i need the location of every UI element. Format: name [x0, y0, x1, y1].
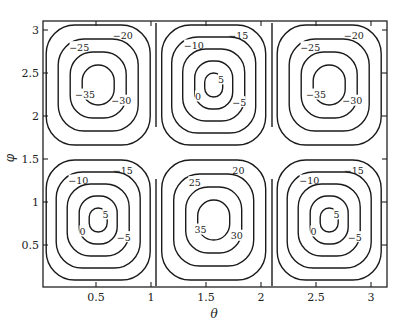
y-tick-label: 2: [32, 110, 39, 123]
contour-line: [162, 160, 266, 280]
contour-label: 35: [194, 224, 206, 235]
contour-line: [186, 187, 242, 253]
contour-line: [56, 172, 140, 268]
contour-line: [172, 37, 256, 133]
contour-line: [162, 25, 266, 145]
x-tick-label: 3: [368, 291, 375, 304]
contour-line: [287, 172, 371, 268]
contours: −20−25−30−35−15−10−505−20−25−30−35−15−10…: [46, 25, 381, 280]
contour-line: [277, 25, 381, 145]
x-tick-label: 2.5: [307, 291, 325, 304]
contour-line: [298, 184, 360, 256]
contour-line: [301, 52, 357, 118]
contour-label: −30: [111, 95, 131, 106]
contour-label: −15: [344, 165, 364, 176]
contour-label: −35: [75, 89, 95, 100]
contour-label: −35: [306, 89, 326, 100]
y-tick-label: 0.5: [22, 239, 40, 252]
contour-line: [70, 52, 126, 118]
y-tick-label: 1.5: [22, 153, 40, 166]
separatrices: [156, 23, 272, 286]
contour-label: 5: [334, 209, 340, 220]
contour-label: 25: [189, 177, 201, 188]
x-tick-label: 1.5: [197, 291, 215, 304]
contour-label: −5: [232, 97, 246, 108]
contour-label: 30: [231, 230, 243, 241]
y-tick-label: 1: [32, 196, 39, 209]
contour-label: 0: [80, 226, 86, 237]
x-tick-label: 2: [258, 291, 265, 304]
contour-label: −5: [348, 232, 362, 243]
contour-line: [277, 160, 381, 280]
y-tick-label: 3: [32, 24, 39, 37]
contour-label: −25: [300, 42, 320, 53]
contour-label: −25: [69, 42, 89, 53]
contour-label: 0: [195, 91, 201, 102]
contour-label: −5: [117, 232, 131, 243]
contour-line: [46, 160, 150, 280]
x-tick-label: 1: [148, 291, 155, 304]
contour-label: 5: [103, 209, 109, 220]
y-tick-label: 2.5: [22, 67, 40, 80]
x-axis-label: θ: [210, 307, 218, 321]
contour-plot: −20−25−30−35−15−10−505−20−25−30−35−15−10…: [0, 0, 403, 328]
y-axis-label: φ: [3, 153, 17, 162]
contour-line: [67, 184, 129, 256]
contour-label: −15: [228, 30, 248, 41]
contour-label: −30: [342, 95, 362, 106]
contour-label: 0: [311, 226, 317, 237]
contour-label: 5: [218, 74, 224, 85]
x-tick-label: 0.5: [87, 291, 105, 304]
contour-label: −15: [113, 165, 133, 176]
contour-line: [46, 25, 150, 145]
contour-line: [183, 49, 245, 121]
